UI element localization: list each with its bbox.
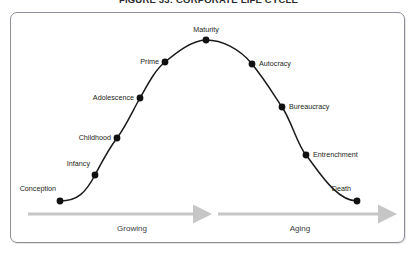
stage-label-infancy: Infancy xyxy=(67,160,90,168)
stage-label-maturity: Maturity xyxy=(193,26,219,34)
phase-label-aging: Aging xyxy=(290,224,310,233)
corporate-life-cycle-figure: FIGURE 33: CORPORATE LIFE CYCLE Concepti… xyxy=(0,0,417,265)
stage-label-prime: Prime xyxy=(140,58,159,66)
stage-label-bureaucracy: Bureaucracy xyxy=(289,103,329,111)
stage-label-autocracy: Autocracy xyxy=(259,60,291,68)
stage-label-entrenchment: Entrenchment xyxy=(313,151,358,159)
stage-label-childhood: Childhood xyxy=(79,134,111,142)
phase-label-growing: Growing xyxy=(117,224,147,233)
figure-title: FIGURE 33: CORPORATE LIFE CYCLE xyxy=(0,0,417,5)
figure-panel-border xyxy=(10,12,405,243)
stage-label-death: Death xyxy=(332,185,351,193)
stage-label-adolescence: Adolescence xyxy=(93,94,134,102)
stage-label-conception: Conception xyxy=(20,185,56,193)
